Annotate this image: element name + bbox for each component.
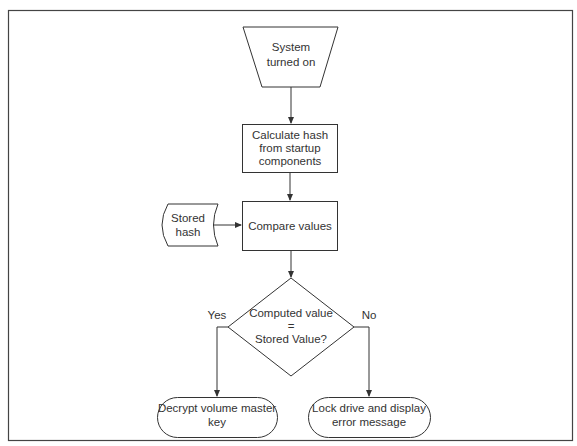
node-label-line: from startup: [259, 142, 320, 154]
node-label-line: Decrypt volume master: [158, 402, 276, 414]
node-label-line: key: [208, 416, 226, 428]
arrow-no-branch: [354, 327, 369, 396]
node-compare-values: Compare values: [243, 202, 338, 251]
node-label-line: Computed value: [249, 307, 333, 319]
node-label-line: Calculate hash: [252, 129, 328, 141]
node-label-line: Stored Value?: [255, 333, 327, 345]
yes-label: Yes: [208, 309, 227, 321]
flowchart-diagram: System turned on Calculate hash from sta…: [0, 0, 577, 446]
node-lock-drive: Lock drive and display error message: [309, 398, 431, 438]
arrow-yes-branch: [217, 327, 228, 396]
node-decrypt-volume-master-key: Decrypt volume master key: [158, 398, 278, 438]
stored-data-shape: [162, 204, 218, 246]
node-label-line: components: [259, 155, 322, 167]
node-decision: Computed value = Stored Value?: [228, 278, 354, 376]
node-system-turned-on: System turned on: [243, 27, 338, 87]
node-label-line: Lock drive and display: [312, 402, 426, 414]
node-label-line: turned on: [267, 56, 316, 68]
node-label-line: Compare values: [248, 220, 332, 232]
node-label-line: Stored: [171, 212, 205, 224]
node-stored-hash: Stored hash: [162, 204, 218, 246]
node-label-line: hash: [176, 226, 201, 238]
node-label-line: =: [288, 320, 295, 332]
node-calculate-hash: Calculate hash from startup components: [243, 125, 338, 173]
no-label: No: [362, 309, 377, 321]
node-label-line: error message: [332, 416, 406, 428]
node-label-line: System: [272, 41, 310, 53]
